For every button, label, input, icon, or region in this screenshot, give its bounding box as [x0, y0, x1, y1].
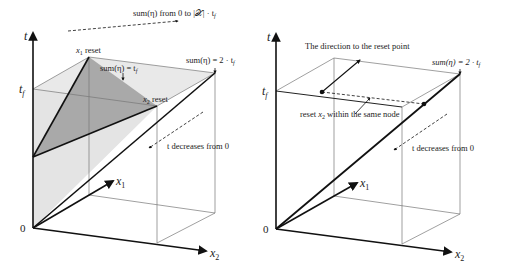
t-decreases-label: t decreases from 0 [167, 141, 229, 151]
t-axis-label-right: t [267, 30, 271, 44]
sum-range-annotation: sum(η) from 0 to |𝒳| · tf [133, 8, 217, 19]
x2-axis-label-right: x2 [454, 247, 464, 263]
x2-reset-label: x2 reset [142, 94, 169, 105]
tf-tick-label: tf [19, 82, 26, 98]
x2-axis-label: x2 [209, 246, 219, 262]
direction-label: The direction to the reset point [305, 41, 410, 51]
x1-axis-label-right: x1 [359, 176, 369, 192]
right-diagram: t 0 tf x1 x2 The direction to the reset … [262, 30, 482, 263]
x1-reset-label: x1 reset [75, 45, 102, 56]
direction-to-reset-line [322, 60, 360, 92]
x1-axis-label: x1 [115, 174, 125, 190]
origin-label: 0 [20, 222, 26, 234]
sum-eq-2tf-label: sum(η) = 2 · tf [186, 55, 236, 66]
sum-range-arrow [68, 21, 178, 31]
sum-eq-2tf-label-right: sum(η) = 2 · tf [432, 57, 482, 68]
t-decreases-label-right: t decreases from 0 [412, 143, 474, 153]
origin-label-right: 0 [263, 223, 269, 235]
left-diagram: t 0 tf x1 x2 sum(η) from 0 to |𝒳| · tf x… [19, 8, 236, 262]
tf-tick-label-right: tf [262, 84, 269, 100]
reset-x2-label: reset x2 within the same node [300, 109, 400, 120]
sum-eq-tf-label: sum(η) = tf [100, 63, 139, 74]
t-axis-label: t [24, 29, 28, 43]
x1-axis-right [276, 183, 357, 229]
